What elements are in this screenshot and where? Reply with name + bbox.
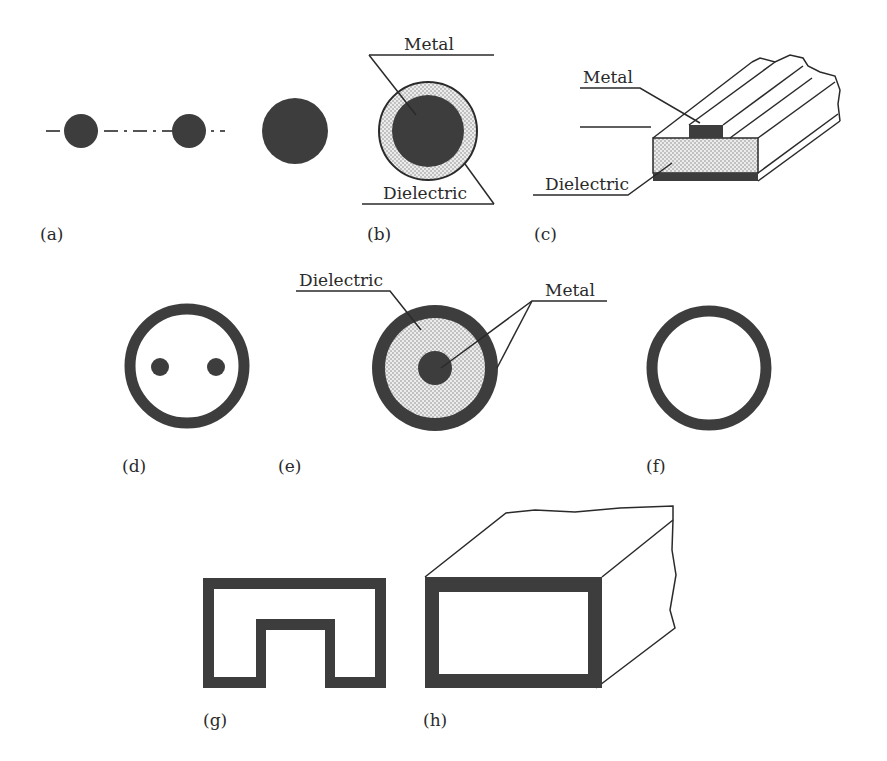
callout-e-metal: Metal: [545, 282, 595, 299]
callout-b-metal: Metal: [404, 36, 454, 53]
wire-conductor: [64, 114, 98, 148]
panel-f-circular-waveguide: [652, 311, 766, 425]
panel-e-coaxial: [296, 291, 607, 431]
panel-f-label: (f): [646, 458, 666, 475]
wire-conductor: [172, 114, 206, 148]
panel-c-label: (c): [534, 226, 557, 243]
callout-b-dielectric: Dielectric: [383, 185, 467, 202]
panel-g-label: (g): [203, 712, 227, 729]
panel-d-label: (d): [122, 458, 146, 475]
panel-b-coated-wire: [362, 55, 494, 204]
callout-c-dielectric: Dielectric: [545, 176, 629, 193]
single-wire-conductor: [262, 98, 328, 164]
panel-b-label: (b): [367, 226, 391, 243]
panel-g-ridge-waveguide: [203, 578, 386, 688]
callout-e-dielectric: Dielectric: [299, 272, 383, 289]
figure-drawing: [0, 0, 887, 761]
panel-a-two-wire: [46, 98, 328, 164]
panel-h-rectangular-waveguide: [425, 506, 676, 688]
panel-e-label: (e): [278, 458, 301, 475]
panel-h-label: (h): [423, 712, 447, 729]
callout-c-metal: Metal: [583, 69, 633, 86]
panel-d-shielded-pair: [130, 309, 244, 423]
panel-a-label: (a): [40, 226, 63, 243]
transmission-line-figure: (a) (b) (c) (d) (e) (f) (g) (h) Metal Di…: [0, 0, 887, 761]
